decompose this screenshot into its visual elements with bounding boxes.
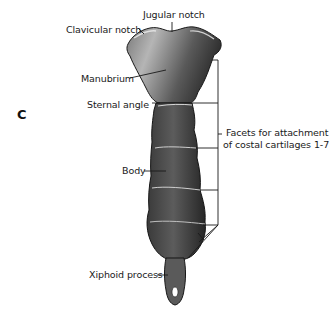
manubrium-shape: [127, 27, 221, 103]
xiphoid-shape: [165, 258, 186, 305]
label-xiphoid-process: Xiphoid process: [89, 269, 163, 280]
label-facets-line2: of costal cartilages 1-7: [223, 139, 329, 150]
label-body: Body: [122, 165, 146, 176]
label-manubrium: Manubrium: [81, 73, 134, 84]
label-facets-line1: Facets for attachment: [226, 127, 328, 138]
panel-letter: C: [17, 107, 27, 122]
label-jugular-notch: Jugular notch: [143, 9, 205, 20]
sternal-body-shape: [147, 103, 205, 260]
label-sternal-angle: Sternal angle: [87, 99, 149, 110]
sternum-illustration: [0, 0, 332, 315]
label-clavicular-notch: Clavicular notch: [66, 24, 141, 35]
